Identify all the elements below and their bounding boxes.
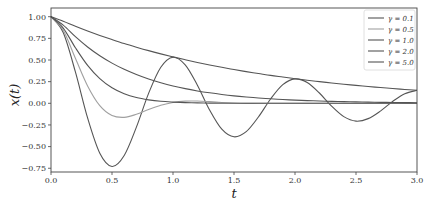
y-tick-label: 0.75 (28, 34, 46, 43)
series-line-3 (51, 17, 417, 103)
x-tick-label: 3.0 (411, 176, 424, 185)
x-tick-label: 2.0 (289, 176, 302, 185)
legend-label: γ = 0.1 (388, 15, 414, 23)
legend-label: γ = 5.0 (388, 59, 414, 67)
series-line-0 (51, 17, 417, 167)
x-axis-ticks: 0.00.51.01.52.02.53.0 (45, 172, 424, 185)
y-tick-label: 1.00 (28, 13, 46, 22)
legend-label: γ = 0.5 (388, 26, 414, 34)
plot-lines (51, 17, 417, 167)
y-axis-label: x(t) (7, 84, 22, 107)
y-tick-label: 0.00 (28, 99, 46, 108)
line-chart: 0.00.51.01.52.02.53.0 1.000.750.500.250.… (0, 0, 429, 203)
x-axis-label: t (231, 186, 237, 201)
series-line-4 (51, 17, 417, 91)
x-tick-label: 1.0 (167, 176, 180, 185)
y-tick-label: −0.25 (21, 121, 46, 130)
x-tick-label: 2.5 (350, 176, 363, 185)
y-tick-label: −0.50 (21, 142, 46, 151)
legend-label: γ = 1.0 (388, 37, 414, 45)
x-tick-label: 0.5 (106, 176, 119, 185)
legend: γ = 0.1γ = 0.5γ = 1.0γ = 2.0γ = 5.0 (364, 10, 415, 70)
y-axis-ticks: 1.000.750.500.250.00−0.25−0.50−0.75 (21, 13, 51, 174)
legend-label: γ = 2.0 (388, 48, 414, 56)
x-tick-label: 0.0 (45, 176, 58, 185)
y-tick-label: 0.25 (28, 77, 46, 86)
y-tick-label: −0.75 (21, 164, 46, 173)
axes-frame (51, 8, 417, 172)
y-tick-label: 0.50 (28, 56, 46, 65)
x-tick-label: 1.5 (228, 176, 241, 185)
